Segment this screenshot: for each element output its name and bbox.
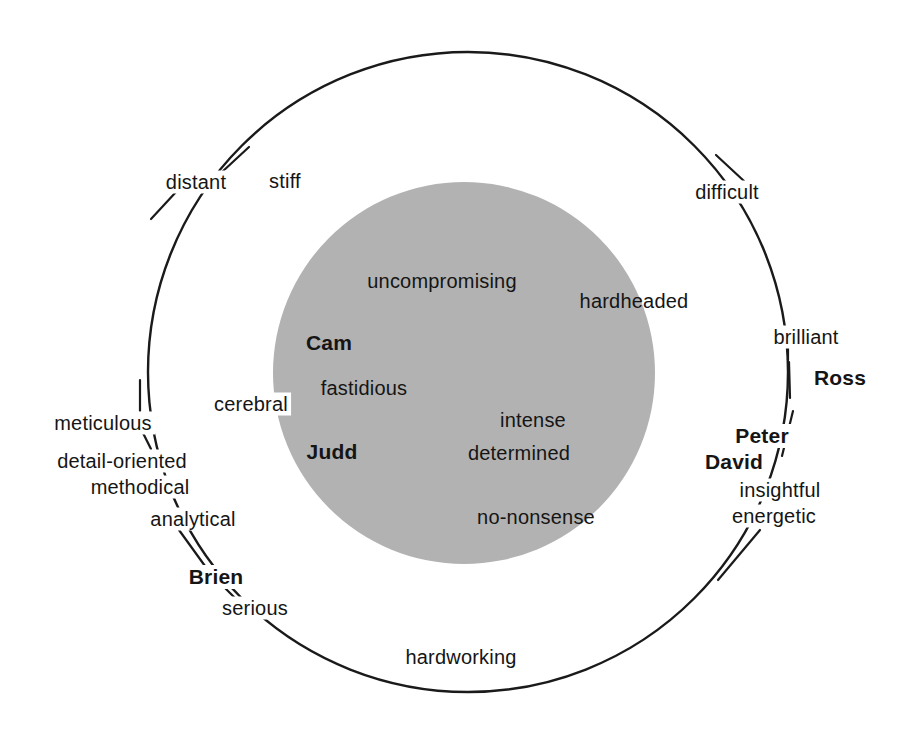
trait-label-fastidious: fastidious xyxy=(321,377,408,400)
person-label-peter: Peter xyxy=(732,424,792,448)
trait-label-cerebral: cerebral xyxy=(211,393,291,416)
trait-label-distant: distant xyxy=(163,171,229,194)
trait-label-detail-oriented: detail-oriented xyxy=(54,450,190,473)
trait-label-determined: determined xyxy=(468,442,570,465)
trait-label-analytical: analytical xyxy=(147,508,238,531)
leader-ross xyxy=(789,362,790,398)
trait-label-brilliant: brilliant xyxy=(770,326,841,349)
trait-label-energetic: energetic xyxy=(729,505,819,528)
person-label-david: David xyxy=(702,450,766,474)
trait-label-insightful: insightful xyxy=(737,479,824,502)
trait-label-hardheaded: hardheaded xyxy=(580,290,689,313)
leader-energetic xyxy=(718,530,760,580)
inner-circle xyxy=(273,182,655,564)
trait-label-stiff: stiff xyxy=(266,170,304,193)
leader-distant-down xyxy=(151,192,176,219)
trait-label-intense: intense xyxy=(500,409,566,432)
diagram-canvas: uncompromisinghardheadedCamfastidiousint… xyxy=(0,0,907,736)
leader-meticulous-down xyxy=(143,433,151,449)
person-label-judd: Judd xyxy=(307,440,358,464)
person-label-ross: Ross xyxy=(811,366,869,390)
trait-label-hardworking: hardworking xyxy=(402,646,519,669)
person-label-cam: Cam xyxy=(306,331,352,355)
trait-label-difficult: difficult xyxy=(692,181,762,204)
trait-label-no-nonsense: no-nonsense xyxy=(477,506,595,529)
concentric-circles-svg xyxy=(0,0,907,736)
leader-difficult xyxy=(716,155,744,181)
trait-label-serious: serious xyxy=(219,597,291,620)
trait-label-meticulous: meticulous xyxy=(51,412,155,435)
trait-label-uncompromising: uncompromising xyxy=(367,270,517,293)
person-label-brien: Brien xyxy=(186,565,247,589)
trait-label-methodical: methodical xyxy=(88,476,193,499)
